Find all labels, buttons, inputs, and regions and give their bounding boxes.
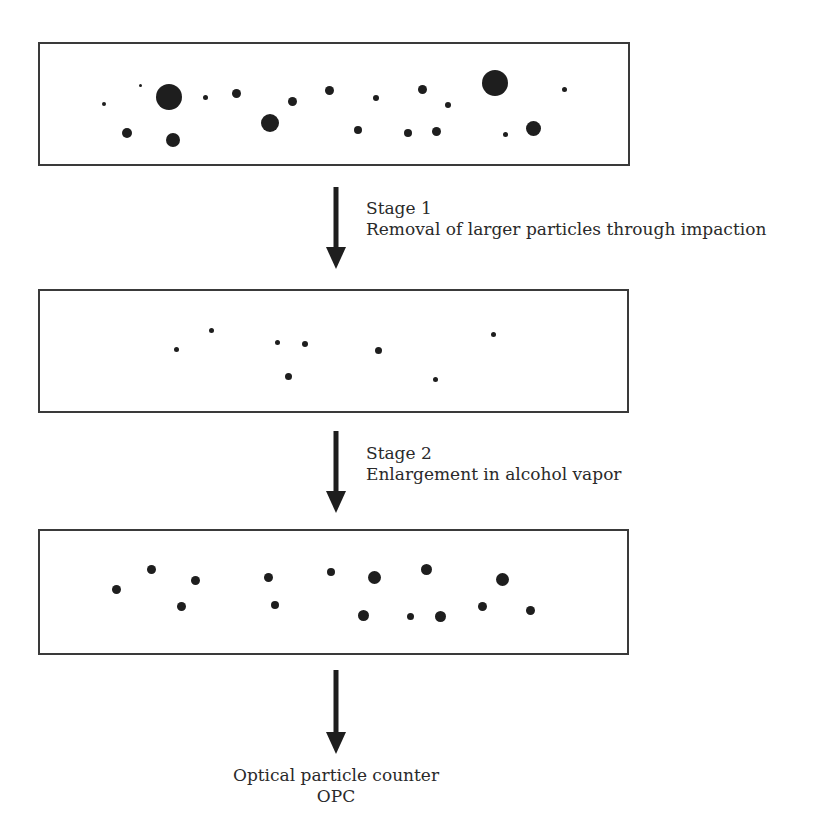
particle bbox=[375, 347, 382, 354]
inlet-aerosol-box bbox=[38, 42, 630, 166]
particle bbox=[203, 95, 208, 100]
opc-label-line2: OPC bbox=[186, 786, 486, 807]
particle bbox=[102, 102, 106, 106]
opc-label-line1: Optical particle counter bbox=[186, 765, 486, 786]
stage2-label: Stage 2 Enlargement in alcohol vapor bbox=[366, 443, 622, 485]
particle bbox=[526, 606, 535, 615]
particle bbox=[209, 328, 214, 333]
particle bbox=[496, 573, 509, 586]
particle bbox=[418, 85, 427, 94]
particle bbox=[285, 373, 292, 380]
particle bbox=[264, 573, 273, 582]
particle bbox=[156, 84, 182, 110]
particle bbox=[147, 565, 156, 574]
particle bbox=[139, 84, 142, 87]
particle bbox=[232, 89, 241, 98]
particle bbox=[421, 564, 432, 575]
particle bbox=[435, 611, 446, 622]
particle bbox=[407, 613, 414, 620]
particle bbox=[432, 127, 441, 136]
particle bbox=[503, 132, 508, 137]
output-arrow-icon bbox=[325, 670, 347, 754]
particle bbox=[275, 340, 280, 345]
particle bbox=[373, 95, 379, 101]
stage1-description: Removal of larger particles through impa… bbox=[366, 219, 766, 240]
stage1-label: Stage 1 Removal of larger particles thro… bbox=[366, 198, 766, 240]
particle bbox=[526, 121, 541, 136]
after-enlargement-box bbox=[38, 529, 629, 655]
particle bbox=[302, 341, 308, 347]
particle bbox=[174, 347, 179, 352]
particle bbox=[166, 133, 180, 147]
particle bbox=[191, 576, 200, 585]
particle bbox=[122, 128, 132, 138]
particle bbox=[491, 332, 496, 337]
stage2-arrow-icon bbox=[325, 431, 347, 513]
particle bbox=[354, 126, 362, 134]
particle bbox=[482, 70, 508, 96]
stage2-description: Enlargement in alcohol vapor bbox=[366, 464, 622, 485]
after-impaction-box bbox=[38, 289, 629, 413]
particle bbox=[261, 114, 279, 132]
particle bbox=[433, 377, 438, 382]
particle bbox=[562, 87, 567, 92]
particle bbox=[445, 102, 451, 108]
opc-label: Optical particle counter OPC bbox=[186, 765, 486, 807]
particle bbox=[404, 129, 412, 137]
stage1-arrow-icon bbox=[325, 187, 347, 269]
particle bbox=[478, 602, 487, 611]
particle bbox=[288, 97, 297, 106]
particle bbox=[368, 571, 381, 584]
particle bbox=[327, 568, 335, 576]
particle bbox=[177, 602, 186, 611]
stage1-title: Stage 1 bbox=[366, 198, 766, 219]
particle bbox=[358, 610, 369, 621]
stage2-title: Stage 2 bbox=[366, 443, 622, 464]
particle bbox=[112, 585, 121, 594]
particle bbox=[271, 601, 279, 609]
particle bbox=[325, 86, 334, 95]
